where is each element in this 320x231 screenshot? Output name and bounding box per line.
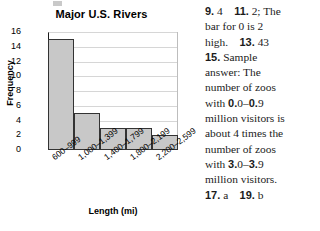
y-tick-label: 12	[0, 57, 21, 66]
answer-line: with 0.0–0.9	[205, 96, 318, 111]
histogram-chart: Major U.S. Rivers Frequency 161412108642…	[0, 0, 203, 231]
answer-line: bar for 0 is 2	[205, 19, 318, 34]
answer-line: number of zoos	[205, 80, 318, 95]
y-tick-label: 16	[0, 27, 21, 36]
answer-line: million visitors.	[205, 172, 318, 187]
y-tick-label: 0	[0, 145, 21, 154]
answer-line: high. 13. 43	[205, 35, 318, 50]
answer-line: million visitors is	[205, 111, 318, 126]
y-tick-label: 10	[0, 71, 21, 80]
y-tick-label: 14	[0, 42, 21, 51]
answer-line: answer: The	[205, 65, 318, 80]
chart-title: Major U.S. Rivers	[0, 8, 203, 20]
answer-line: number of zoos	[205, 142, 318, 157]
answer-line: 15. Sample	[205, 50, 318, 65]
y-tick-label: 8	[0, 86, 21, 95]
page-root: Major U.S. Rivers Frequency 161412108642…	[0, 0, 320, 231]
y-tick-label: 2	[0, 130, 21, 139]
x-axis-label: Length (mi)	[48, 206, 178, 216]
answer-line: about 4 times the	[205, 126, 318, 141]
answer-line: 17. a 19. b	[205, 188, 318, 203]
answer-key-text: 9. 4 11. 2; Thebar for 0 is 2high. 13. 4…	[205, 4, 318, 203]
answer-line: with 3.0–3.9	[205, 157, 318, 172]
y-tick-label: 4	[0, 116, 21, 125]
bar	[48, 39, 74, 150]
answer-line: 9. 4 11. 2; The	[205, 4, 318, 19]
y-tick-label: 6	[0, 101, 21, 110]
